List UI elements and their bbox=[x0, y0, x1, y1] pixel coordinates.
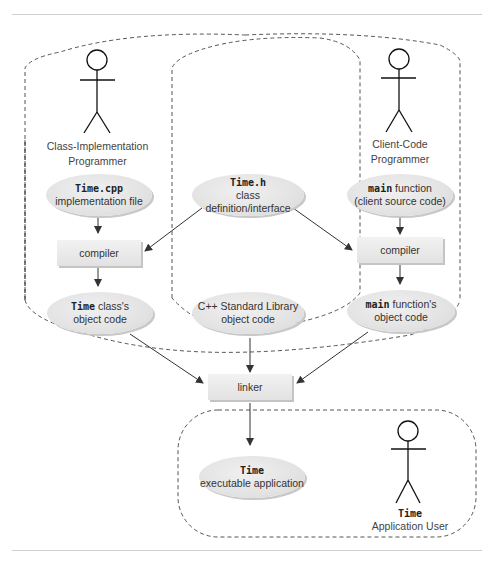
node-text: class definition/interface bbox=[192, 189, 304, 215]
actor-app-user-label: Time Application User bbox=[370, 507, 450, 533]
time-object-code-node: Time class's object code bbox=[47, 292, 153, 334]
time-cpp-node: Time.cpp implementation file bbox=[46, 174, 152, 216]
node-text-line1: C++ Standard Library bbox=[198, 300, 298, 313]
actor-label-line2: Programmer bbox=[350, 152, 450, 167]
node-text: object code bbox=[73, 313, 127, 326]
actor-label-line1: Client-Code bbox=[350, 137, 450, 152]
actor-client-code-label: Client-Code Programmer bbox=[350, 137, 450, 167]
node-text: compiler bbox=[79, 247, 119, 260]
actor-class-impl-label: Class-Implementation Programmer bbox=[40, 139, 155, 169]
node-text: compiler bbox=[380, 244, 420, 257]
stdlib-object-code-node: C++ Standard Library object code bbox=[192, 292, 304, 334]
actor-app-user-icon bbox=[391, 421, 426, 503]
main-function-node: main function (client source code) bbox=[347, 174, 453, 216]
linker-box: linker bbox=[208, 374, 292, 400]
node-code: Time bbox=[71, 301, 95, 312]
time-h-node: Time.h class definition/interface bbox=[192, 174, 304, 216]
node-code: Time.h bbox=[230, 176, 266, 189]
node-code: Time.cpp bbox=[75, 182, 123, 195]
node-text-inline: class's bbox=[95, 300, 129, 312]
node-text: executable application bbox=[200, 477, 304, 490]
actor-label-code: Time bbox=[370, 507, 450, 520]
actor-label-line2: Application User bbox=[370, 520, 450, 533]
node-code: main bbox=[368, 183, 392, 194]
actor-client-code-icon bbox=[381, 49, 416, 132]
node-text: object code bbox=[221, 313, 275, 326]
node-code: main bbox=[365, 299, 389, 310]
time-executable-node: Time executable application bbox=[199, 456, 305, 498]
node-text: (client source code) bbox=[354, 195, 446, 208]
node-text-inline: function bbox=[392, 182, 432, 194]
actor-label-line2: Programmer bbox=[40, 154, 155, 169]
main-object-code-node: main function's object code bbox=[347, 290, 455, 332]
compiler-right-box: compiler bbox=[357, 237, 443, 263]
compiler-left-box: compiler bbox=[57, 240, 141, 266]
node-text: object code bbox=[374, 311, 428, 324]
node-text: linker bbox=[237, 381, 262, 394]
node-text: implementation file bbox=[55, 195, 143, 208]
node-text-inline: function's bbox=[390, 298, 437, 310]
actor-class-impl-icon bbox=[80, 50, 115, 133]
arrow-main-obj-to-linker bbox=[297, 332, 368, 383]
actor-label-line1: Class-Implementation bbox=[40, 139, 155, 154]
arrow-time-obj-to-linker bbox=[130, 334, 203, 383]
node-code: Time bbox=[240, 464, 264, 477]
